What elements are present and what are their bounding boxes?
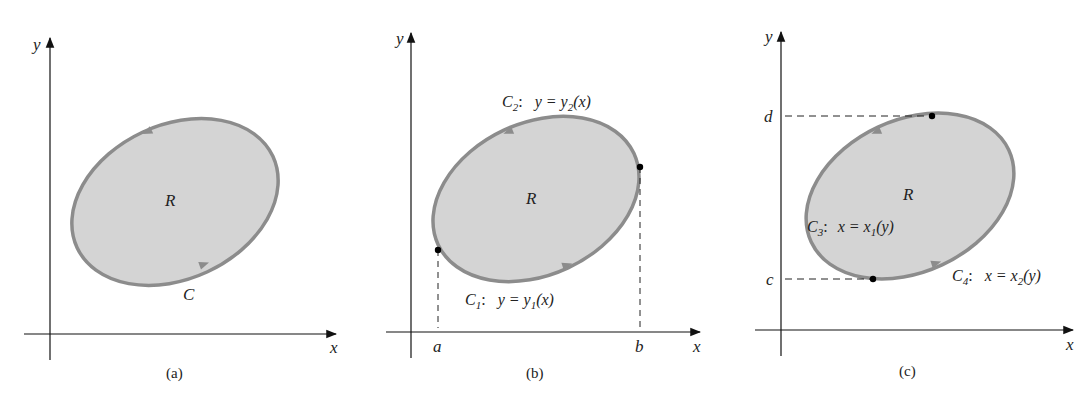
x-axis-label: x [1065, 335, 1074, 354]
region-label: R [164, 191, 176, 210]
right-curve-label: C4: x = x2(y) [952, 267, 1041, 287]
point-b [637, 164, 643, 170]
region-label: R [525, 189, 537, 208]
point-a [435, 247, 441, 253]
point-c [870, 276, 876, 282]
panel-c: y x d c R C3: x = x1(y) C4: x = x2(y) (c… [755, 27, 1074, 380]
upper-curve-label: C2: y = y2(x) [502, 93, 591, 113]
y-axis-label: y [394, 29, 404, 48]
tick-c: c [766, 270, 774, 289]
green-theorem-figure: y x R C (a) y x R C2: y = y2(x) C1: y = … [0, 0, 1083, 411]
y-axis-label: y [763, 27, 773, 46]
caption-c: (c) [899, 363, 916, 380]
tick-b: b [635, 337, 644, 356]
y-axis-label: y [31, 35, 41, 54]
caption-a: (a) [166, 365, 183, 382]
tick-a: a [433, 337, 442, 356]
x-axis-label: x [692, 337, 701, 356]
curve-label: C [183, 285, 195, 304]
point-d [929, 113, 935, 119]
caption-b: (b) [526, 365, 544, 382]
tick-d: d [764, 107, 773, 126]
region-label: R [902, 185, 914, 204]
panel-a: y x R C (a) [24, 35, 338, 382]
lower-curve-label: C1: y = y1(x) [465, 291, 554, 311]
x-axis-label: x [329, 338, 338, 357]
panel-b: y x R C2: y = y2(x) C1: y = y1(x) a b (b… [386, 29, 701, 382]
